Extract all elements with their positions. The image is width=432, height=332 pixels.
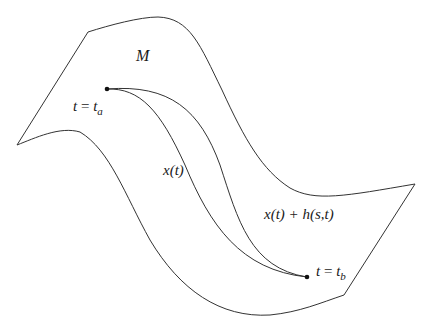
end-label-eq: = xyxy=(320,263,336,279)
end-label: t = tb xyxy=(316,264,346,279)
manifold-label: M xyxy=(136,48,149,64)
end-point xyxy=(305,275,310,280)
curve-x-plus-h xyxy=(107,88,307,277)
start-label-eq: = xyxy=(77,98,93,114)
start-point xyxy=(105,87,110,92)
curve-label: x(t) xyxy=(163,163,184,178)
diagram-canvas xyxy=(0,0,432,332)
curve-x xyxy=(107,89,307,277)
manifold-diagram: M t = ta x(t) x(t) + h(s,t) t = tb xyxy=(0,0,432,332)
end-label-sub: b xyxy=(340,270,346,282)
start-label-sub: a xyxy=(97,105,103,117)
start-label: t = ta xyxy=(73,99,103,114)
perturbed-curve-label: x(t) + h(s,t) xyxy=(264,207,334,222)
manifold-boundary xyxy=(17,17,415,315)
